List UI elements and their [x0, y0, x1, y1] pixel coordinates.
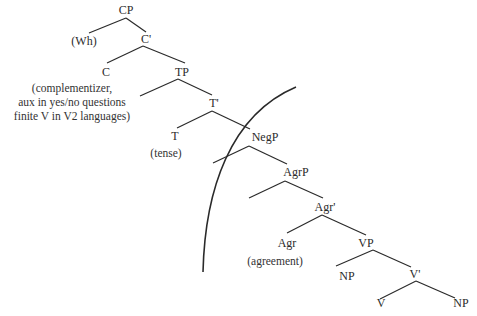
node-c-bar: C' — [141, 33, 151, 46]
c-note-line-3: finite V in V2 languages) — [14, 109, 130, 123]
branch-cbar-tp — [143, 46, 185, 63]
node-t-bar: T' — [209, 97, 219, 110]
node-agrp: AgrP — [283, 166, 308, 179]
node-negp: NegP — [252, 131, 279, 144]
node-cp: CP — [119, 4, 134, 17]
agr-annotation: (agreement) — [247, 254, 303, 268]
branch-tbar-t — [177, 111, 212, 128]
node-vp: VP — [358, 237, 373, 250]
node-v-bar: V' — [410, 268, 421, 281]
t-annotation: (tense) — [150, 146, 181, 160]
branch-agrbar-agr — [287, 215, 322, 233]
node-agr-bar: Agr' — [315, 201, 336, 214]
node-t: T — [171, 130, 178, 143]
node-wh: (Wh) — [71, 35, 96, 48]
branch-vp-vbar — [373, 250, 411, 267]
branch-vp-np — [336, 250, 373, 266]
branch-agrp-spec — [249, 181, 285, 198]
c-annotation: (complementizer, aux in yes/no questions… — [14, 81, 130, 123]
branch-tp-tbar — [178, 79, 212, 95]
branch-tp-spec — [140, 79, 178, 96]
node-v: V — [377, 297, 386, 310]
node-agr: Agr — [278, 237, 297, 250]
branch-vbar-np — [416, 281, 455, 298]
c-note-line-1: (complementizer, — [14, 81, 130, 95]
c-note-line-2: aux in yes/no questions — [14, 95, 130, 109]
branch-negp-agrp — [249, 146, 287, 164]
node-vp-np: NP — [339, 270, 354, 283]
branch-agrbar-vp — [322, 215, 366, 235]
node-tp: TP — [175, 66, 189, 79]
branch-cp-wh — [89, 18, 126, 33]
syntax-tree-diagram: CP (Wh) C' C TP (complementizer, aux in … — [0, 0, 477, 316]
node-c: C — [102, 66, 110, 79]
branch-cp-cbar — [126, 18, 146, 32]
branch-cbar-c — [107, 46, 143, 63]
node-object-np: NP — [453, 297, 468, 310]
branch-agrp-agrbar — [285, 181, 323, 198]
